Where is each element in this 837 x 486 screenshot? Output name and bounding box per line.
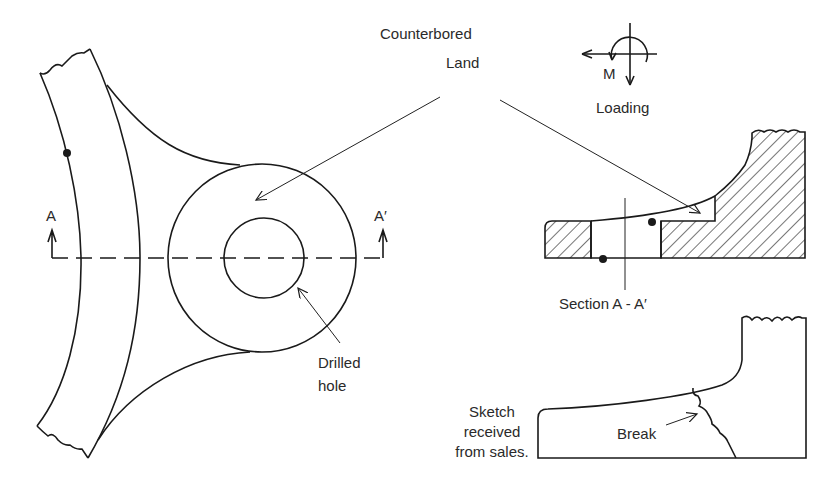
- counterbore-leader-left: [256, 97, 440, 200]
- engineering-drawing: [0, 0, 837, 486]
- section-right-body: [661, 130, 805, 258]
- rim-inner-edge: [88, 49, 140, 458]
- section-label-a-prime: A′: [374, 208, 387, 223]
- break-label: Break: [617, 426, 656, 441]
- loading-symbol: [582, 23, 657, 85]
- counterbore-leader-right: [500, 100, 700, 213]
- sketch-label-line1: Sketch: [452, 404, 532, 419]
- section-label-a: A: [46, 208, 56, 223]
- loading-label: Loading: [596, 100, 649, 115]
- section-view: [545, 130, 805, 290]
- web-lower-fillet: [98, 352, 250, 440]
- drilled-hole-leader: [298, 288, 340, 343]
- drilled-label-line2: hole: [318, 378, 346, 393]
- sketch-outline: [538, 316, 806, 458]
- plan-view: [37, 49, 387, 458]
- sales-sketch: [538, 316, 806, 458]
- section-hole: [591, 221, 661, 258]
- land-label: Land: [446, 55, 479, 70]
- section-dot-lower: [599, 255, 607, 263]
- section-title-label: Section A - A′: [559, 296, 647, 311]
- sketch-label-line3: from sales.: [446, 444, 538, 459]
- drilled-label-line1: Drilled: [318, 355, 361, 370]
- counterbored-label: Counterbored: [380, 26, 472, 41]
- rim-outer-edge: [37, 73, 81, 426]
- sketch-break-line: [693, 388, 736, 458]
- section-left-lug: [545, 221, 591, 258]
- locating-dot: [63, 149, 71, 157]
- section-profile-curve: [591, 196, 715, 221]
- sketch-label-line2: received: [452, 424, 532, 439]
- section-dot-upper: [648, 218, 656, 226]
- break-leader: [666, 414, 697, 425]
- section-arrow-a-prime: [379, 230, 387, 258]
- rim-break-top: [40, 49, 90, 74]
- moment-label: M: [603, 66, 616, 81]
- section-arrow-a: [48, 230, 56, 258]
- rim-break-bottom: [37, 426, 88, 458]
